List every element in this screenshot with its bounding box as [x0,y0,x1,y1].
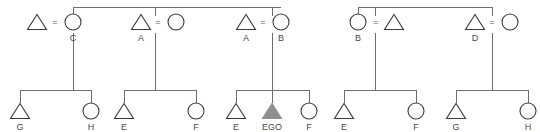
g2-child-f-3-1-female-circle-symbol [408,103,424,119]
g1-left-d-4-label: D [472,33,479,43]
g2-child-f-2-2-female-circle-symbol [301,103,317,119]
kinship-diagram-canvas: C=A=AB=B=D=GHEFEEGOFEFGH [0,0,540,132]
g2-child-e-1-0-label: E [121,122,127,132]
g1-left-unlabeled-0-male-triangle-symbol [28,15,47,30]
g1-left-a-1-label: A [138,33,144,43]
g2-child-e-2-0-male-triangle-symbol [227,104,246,119]
symbols-layer: C=A=AB=B=D=GHEFEEGOFEFGH [11,14,537,132]
g2-child-f-2-2-label: F [306,122,312,132]
g2-child-g-4-0-label: G [452,122,459,132]
g2-child-e-3-0-label: E [341,122,347,132]
g1-right-c-0-female-circle-symbol [65,14,81,30]
g2-ego-ego-2-1-label: EGO [262,122,282,132]
g1-right-unlabeled-1-female-circle-symbol [168,14,184,30]
g2-child-f-1-1-label: F [193,122,199,132]
g2-child-h-0-1-label: H [88,122,95,132]
kinship-diagram: C=A=AB=B=D=GHEFEEGOFEFGH [0,0,540,132]
g2-child-g-0-0-label: G [16,122,23,132]
g1-left-b-3-label: B [355,33,361,43]
g1-right-c-0-label: C [70,33,77,43]
g2-child-f-3-1-label: F [413,122,419,132]
union-4-union-equals-sign: = [373,17,378,27]
g1-right-unlabeled-4-female-circle-symbol [502,14,518,30]
g2-ego-ego-2-1-male-triangle-symbol [263,104,282,119]
g2-child-e-3-0-male-triangle-symbol [335,104,354,119]
g2-child-h-4-1-female-circle-symbol [520,103,536,119]
g1-left-b-3-female-circle-symbol [350,14,366,30]
g1-left-a-1-male-triangle-symbol [132,15,151,30]
g2-child-f-1-1-female-circle-symbol [188,103,204,119]
g1-right-b-2-label: B [278,33,284,43]
union-3-union-equals-sign: = [260,17,265,27]
g1-right-unlabeled-3-male-triangle-symbol [385,15,404,30]
union-5-union-equals-sign: = [489,17,494,27]
g1-left-a-2-label: A [243,33,249,43]
g1-right-b-2-female-circle-symbol [273,14,289,30]
g2-child-e-1-0-male-triangle-symbol [115,104,134,119]
union-1-union-equals-sign: = [52,17,57,27]
g2-child-e-2-0-label: E [233,122,239,132]
g1-left-a-2-male-triangle-symbol [237,15,256,30]
union-2-union-equals-sign: = [155,17,160,27]
g2-child-h-4-1-label: H [525,122,532,132]
g2-child-g-4-0-male-triangle-symbol [447,104,466,119]
g2-child-g-0-0-male-triangle-symbol [11,104,30,119]
g1-left-d-4-male-triangle-symbol [466,15,485,30]
g2-child-h-0-1-female-circle-symbol [83,103,99,119]
